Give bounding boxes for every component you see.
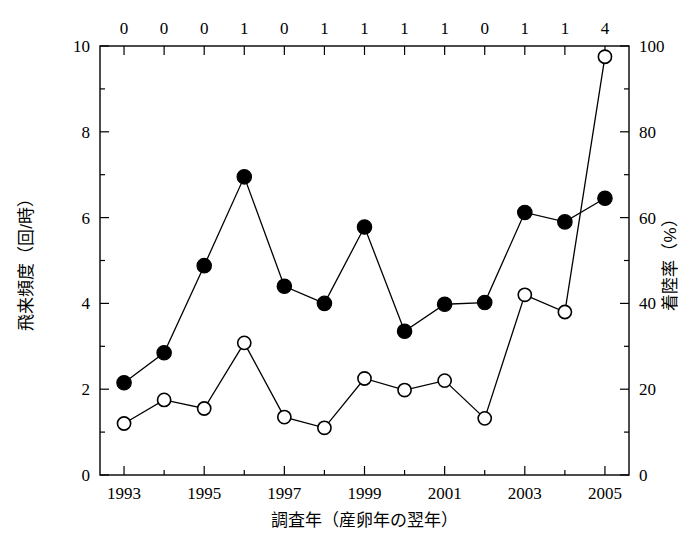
top-axis-count: 1 — [400, 19, 409, 38]
y-right-tick-label: 80 — [639, 123, 656, 142]
top-axis-count: 1 — [440, 19, 449, 38]
top-axis-count: 0 — [200, 19, 209, 38]
data-point-frequency — [558, 215, 572, 229]
data-point-frequency — [237, 170, 251, 184]
data-point-landing-rate — [598, 50, 611, 63]
line-chart: 1993199519971999200120032005000101111011… — [0, 0, 700, 544]
x-tick-label: 2001 — [428, 484, 462, 503]
data-point-frequency — [357, 220, 371, 234]
data-point-frequency — [157, 346, 171, 360]
top-axis-count: 4 — [601, 19, 610, 38]
data-point-frequency — [437, 297, 451, 311]
chart-container: 1993199519971999200120032005000101111011… — [0, 0, 700, 544]
top-axis-count: 0 — [480, 19, 489, 38]
x-axis-title: 調査年（産卵年の翌年） — [271, 511, 458, 530]
data-point-landing-rate — [518, 288, 531, 301]
y-left-tick-label: 6 — [82, 209, 91, 228]
y-right-tick-label: 20 — [639, 380, 656, 399]
data-point-landing-rate — [278, 410, 291, 423]
x-tick-label: 1999 — [348, 484, 382, 503]
top-axis-count: 1 — [240, 19, 249, 38]
data-point-frequency — [317, 296, 331, 310]
y-left-tick-label: 0 — [82, 466, 91, 485]
y-axis-title-left: 飛来頻度（回/時） — [17, 190, 36, 331]
data-point-frequency — [397, 324, 411, 338]
x-tick-label: 1995 — [187, 484, 221, 503]
x-tick-label: 2003 — [508, 484, 542, 503]
top-axis-count: 1 — [561, 19, 570, 38]
top-axis-count: 1 — [360, 19, 369, 38]
top-axis-count: 0 — [160, 19, 169, 38]
y-left-tick-label: 8 — [82, 123, 91, 142]
data-point-frequency — [518, 205, 532, 219]
y-left-tick-label: 10 — [73, 37, 90, 56]
data-point-landing-rate — [158, 393, 171, 406]
data-point-landing-rate — [398, 383, 411, 396]
top-axis-count: 0 — [120, 19, 129, 38]
data-point-frequency — [117, 376, 131, 390]
data-point-frequency — [478, 295, 492, 309]
x-tick-label: 1997 — [267, 484, 302, 503]
data-point-landing-rate — [318, 421, 331, 434]
data-point-landing-rate — [478, 412, 491, 425]
y-left-tick-label: 2 — [82, 380, 91, 399]
data-point-landing-rate — [238, 336, 251, 349]
y-axis-title-right: 着陸率（%） — [661, 210, 680, 310]
data-point-landing-rate — [438, 374, 451, 387]
data-point-landing-rate — [358, 372, 371, 385]
data-point-frequency — [598, 191, 612, 205]
y-right-tick-label: 100 — [639, 37, 665, 56]
top-axis-count: 0 — [280, 19, 289, 38]
series-line-frequency — [124, 177, 605, 383]
y-left-tick-label: 4 — [82, 294, 91, 313]
data-point-landing-rate — [117, 417, 130, 430]
y-right-tick-label: 60 — [639, 209, 656, 228]
x-tick-label: 2005 — [588, 484, 622, 503]
data-point-landing-rate — [558, 305, 571, 318]
data-point-frequency — [277, 279, 291, 293]
y-right-tick-label: 0 — [639, 466, 648, 485]
y-right-tick-label: 40 — [639, 294, 656, 313]
x-tick-label: 1993 — [107, 484, 141, 503]
top-axis-count: 1 — [320, 19, 329, 38]
data-point-frequency — [197, 258, 211, 272]
plot-frame — [100, 46, 629, 475]
data-point-landing-rate — [198, 402, 211, 415]
top-axis-count: 1 — [521, 19, 530, 38]
